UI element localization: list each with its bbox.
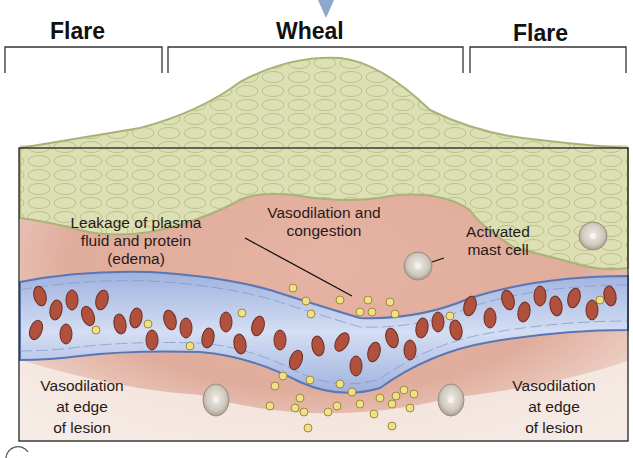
bracket-left-flare [5, 47, 162, 73]
panel-marker-icon [6, 447, 28, 458]
label-vasodilation-right: Vasodilation at edge of lesion [494, 375, 614, 438]
label-edema: Leakage of plasma fluid and protein (ede… [56, 214, 216, 268]
label-mast-cell: Activated mast cell [448, 223, 548, 259]
label-vasodilation-left: Vasodilation at edge of lesion [22, 375, 142, 438]
header-flare-right: Flare [513, 20, 568, 47]
bracket-right-flare [470, 47, 626, 73]
header-flare-left: Flare [50, 18, 105, 45]
arrow-down-icon [318, 0, 334, 18]
header-wheal: Wheal [276, 18, 344, 45]
label-congestion: Vasodilation and congestion [254, 204, 394, 240]
